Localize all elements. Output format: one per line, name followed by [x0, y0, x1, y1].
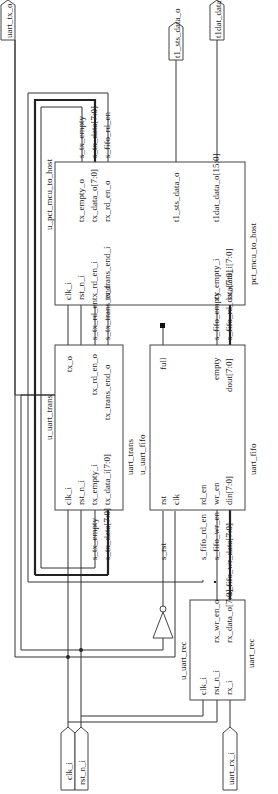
schematic-canvas: uart_tx_o t1_sts_data_o t1dat_data_o[15:… — [0, 0, 278, 794]
rec-type-name: uart_rec — [246, 639, 256, 668]
mcu-pin-rst-n-i: rst_n_i — [76, 275, 86, 301]
trans-pin-tx-o: tx_o — [64, 355, 74, 372]
trans-pin-clk-i: clk_i — [63, 487, 73, 505]
mcu-pin-rx-rd-en-o: rx_rd_en_o — [102, 180, 112, 222]
net-s-fifo-wr-data: s_fifo_wr_data[7:0] — [224, 523, 234, 595]
port-clk-i: clk_i — [64, 762, 74, 780]
net-s-fifo-rd-en-top: s_fifo_rd_en — [102, 112, 112, 158]
net-s-tx-trans-end: s_tx_trans_end — [102, 285, 112, 340]
net-s-tx-data: s_tx_data[7:0] — [89, 106, 99, 158]
mcu-type-name: pct_mcu_to_host — [248, 223, 258, 285]
mcu-pin-clk-i: clk_i — [63, 282, 73, 300]
trans-pin-tx-trans-end-o: tx_trans_end_o — [102, 364, 112, 420]
net-s-fifo-rd-data: s_fifo_rd_data[7:0] — [224, 270, 234, 340]
mcu-pin-tx-rd-en-i: tx_rd_en_i — [89, 261, 99, 300]
mcu-pin-t1dat-data-o: t1dat_data_o[15:0] — [211, 154, 221, 222]
mcu-inst-name: u_pct_mcu_to_host — [44, 159, 54, 230]
rec-inst-name: u_uart_rec — [178, 642, 188, 680]
port-t1-sts-data-o: t1_sts_data_o — [172, 8, 182, 58]
fifo-pin-full: full — [158, 357, 168, 370]
fifo-pin-empty: empty — [211, 357, 221, 380]
fifo-pin-dout: dout[7:0] — [224, 359, 234, 393]
mcu-pin-tx-empty-o: tx_empty_o — [76, 179, 86, 222]
trans-inst-name: u_uart_trans — [44, 395, 54, 440]
net-s-tx-rd-en: s_tx_rd_en — [89, 300, 99, 340]
rec-pin-rx-i: rx_i — [224, 680, 234, 695]
net-s-rst: s_rst — [158, 542, 168, 560]
fifo-pin-rst: rst — [158, 496, 168, 505]
net-s-tx-empty-lower: s_tx_empty — [89, 518, 99, 560]
rec-pin-rx-data-o: rx_data_o[7:0] — [224, 590, 234, 643]
trans-pin-rst-n-i: rst_n_i — [76, 480, 86, 506]
mcu-pin-tx-data-o: tx_data_o[7:0] — [89, 169, 99, 222]
fifo-inst-name: u_uart_fifo — [137, 434, 147, 475]
rec-pin-clk-i: clk_i — [198, 677, 208, 695]
net-s-fifo-rd-en: s_fifo_rd_en — [198, 514, 208, 560]
port-uart-rx-i: uart_rx_i — [226, 752, 236, 785]
net-s-fifo-wr-en: s_fifo_wr_en — [211, 512, 221, 560]
trans-pin-tx-empty-i: tx_empty_i — [89, 464, 99, 505]
net-s-fifo-empty: s_fifo_empty — [211, 292, 221, 340]
rec-pin-rx-wr-en-o: rx_wr_en_o — [211, 599, 221, 643]
rec-pin-rst-n-i: rst_n_i — [211, 670, 221, 696]
fifo-pin-clk: clk — [171, 494, 181, 505]
trans-pin-tx-data-i: tx_data_i[7:0] — [102, 454, 112, 505]
fifo-pin-din: din[7:0] — [224, 476, 234, 505]
net-s-tx-data-lower: s_tx_data[7:0] — [102, 508, 112, 560]
trans-type-name: uart_trans — [125, 439, 135, 475]
net-s-tx-empty: s_tx_empty — [76, 116, 86, 158]
fifo-pin-rd-en: rd_en — [198, 484, 208, 505]
port-rst-n-i: rst_n_i — [77, 760, 87, 786]
trans-pin-tx-rd-en-o: tx_rd_en_o — [89, 354, 99, 395]
mcu-pin-t1-sts-data-o: t1_sts_data_o — [171, 172, 181, 222]
fifo-pin-wr-en: wr_en — [211, 482, 221, 505]
port-t1dat-data-o: t1dat_data_o[15:0] — [213, 0, 223, 38]
port-uart-tx-o: uart_tx_o — [4, 3, 14, 38]
fifo-type-name: uart_fifo — [248, 443, 258, 475]
